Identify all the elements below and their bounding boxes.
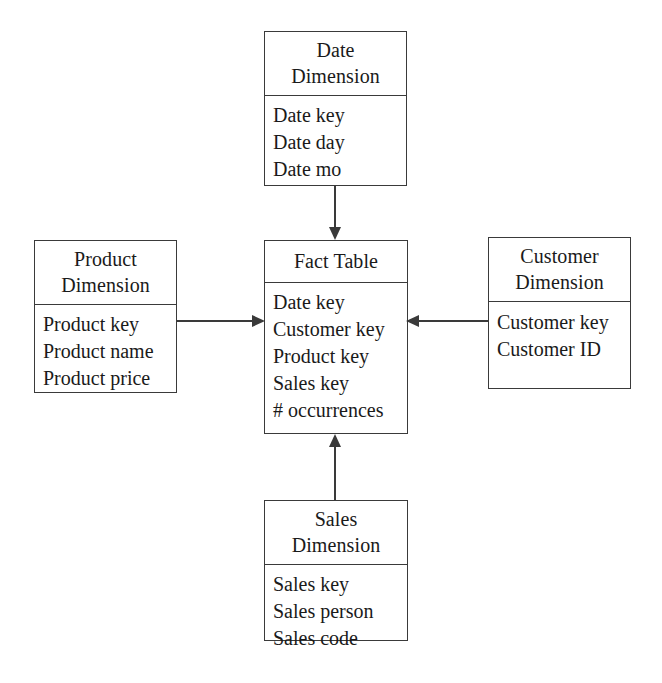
entity-fact-table[interactable]: Fact Table Date key Customer key Product… [264, 240, 408, 434]
connector-customer-to-fact-line [418, 320, 488, 322]
entity-product-dimension-header: Product Dimension [35, 241, 176, 305]
field-row: Date mo [273, 156, 406, 183]
entity-title-line: Dimension [493, 269, 626, 295]
field-row: # occurrences [273, 397, 407, 424]
entity-title-line: Dimension [269, 532, 403, 558]
field-row: Sales key [273, 571, 407, 598]
field-row: Product key [273, 343, 407, 370]
entity-title-line: Fact Table [269, 248, 403, 274]
field-row: Product key [43, 311, 176, 338]
entity-title-line: Product [39, 246, 172, 272]
entity-date-dimension-fields: Date key Date day Date mo [265, 96, 406, 189]
entity-sales-dimension-header: Sales Dimension [265, 501, 407, 565]
field-row: Sales key [273, 370, 407, 397]
entity-sales-dimension-fields: Sales key Sales person Sales code [265, 565, 407, 658]
arrowhead-right-icon [252, 315, 265, 327]
entity-date-dimension[interactable]: Date Dimension Date key Date day Date mo [264, 31, 407, 186]
entity-title-line: Sales [269, 506, 403, 532]
entity-fact-table-fields: Date key Customer key Product key Sales … [265, 283, 407, 433]
field-row: Date key [273, 289, 407, 316]
arrowhead-down-icon [329, 227, 341, 240]
field-row: Customer ID [497, 336, 630, 363]
entity-title-line: Dimension [39, 272, 172, 298]
field-row: Sales person [273, 598, 407, 625]
entity-customer-dimension[interactable]: Customer Dimension Customer key Customer… [488, 237, 631, 389]
entity-fact-table-header: Fact Table [265, 241, 407, 283]
entity-customer-dimension-fields: Customer key Customer ID [489, 302, 630, 388]
field-row: Product price [43, 365, 176, 392]
field-row: Customer key [273, 316, 407, 343]
arrowhead-left-icon [406, 315, 419, 327]
entity-title-line: Customer [493, 243, 626, 269]
connector-sales-to-fact-line [334, 444, 336, 500]
entity-date-dimension-header: Date Dimension [265, 32, 406, 96]
connector-date-to-fact-line [334, 186, 336, 230]
arrowhead-up-icon [329, 434, 341, 447]
entity-product-dimension[interactable]: Product Dimension Product key Product na… [34, 240, 177, 393]
entity-product-dimension-fields: Product key Product name Product price [35, 305, 176, 398]
entity-customer-dimension-header: Customer Dimension [489, 238, 630, 302]
connector-product-to-fact-line [177, 320, 254, 322]
field-row: Date day [273, 129, 406, 156]
field-row: Customer key [497, 309, 630, 336]
entity-title-line: Date [269, 37, 402, 63]
field-row: Sales code [273, 625, 407, 652]
field-row: Date key [273, 102, 406, 129]
field-row: Product name [43, 338, 176, 365]
entity-title-line: Dimension [269, 63, 402, 89]
entity-sales-dimension[interactable]: Sales Dimension Sales key Sales person S… [264, 500, 408, 641]
star-schema-diagram: Date Dimension Date key Date day Date mo… [0, 0, 662, 683]
